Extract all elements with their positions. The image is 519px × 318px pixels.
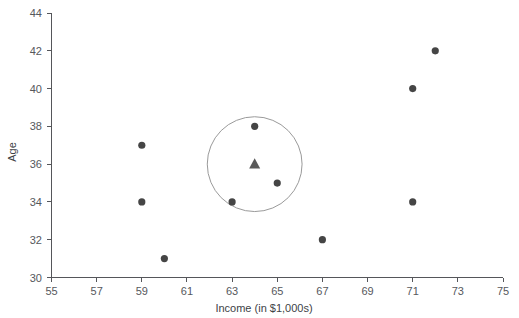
x-tick-label: 55 xyxy=(45,285,57,297)
data-point[interactable] xyxy=(409,85,416,92)
x-tick-label: 69 xyxy=(361,285,373,297)
data-point[interactable] xyxy=(161,255,168,262)
x-tick-labels: 55 57 59 61 63 65 67 69 71 73 75 xyxy=(45,285,509,297)
x-tick-label: 59 xyxy=(136,285,148,297)
y-tick-label: 34 xyxy=(30,196,42,208)
x-axis-ticks xyxy=(52,278,504,283)
x-tick-label: 71 xyxy=(407,285,419,297)
y-tick-label: 30 xyxy=(30,272,42,284)
data-point[interactable] xyxy=(229,198,236,205)
data-point[interactable] xyxy=(409,198,416,205)
y-tick-label: 44 xyxy=(30,7,42,19)
data-point[interactable] xyxy=(319,236,326,243)
data-point[interactable] xyxy=(274,179,281,186)
x-tick-label: 63 xyxy=(226,285,238,297)
x-tick-label: 61 xyxy=(181,285,193,297)
data-point[interactable] xyxy=(138,198,145,205)
x-tick-label: 57 xyxy=(91,285,103,297)
y-tick-labels: 30 32 34 36 38 40 42 44 xyxy=(30,7,42,284)
scatter-plot-figure: 30 32 34 36 38 40 42 44 55 57 59 61 63 6… xyxy=(0,0,519,318)
data-marker-layer xyxy=(138,47,439,262)
x-tick-label: 75 xyxy=(497,285,509,297)
y-tick-label: 38 xyxy=(30,120,42,132)
plot-canvas: 30 32 34 36 38 40 42 44 55 57 59 61 63 6… xyxy=(0,0,519,318)
data-point[interactable] xyxy=(432,47,439,54)
y-tick-label: 36 xyxy=(30,158,42,170)
y-tick-label: 32 xyxy=(30,234,42,246)
x-tick-label: 73 xyxy=(452,285,464,297)
x-tick-label: 65 xyxy=(271,285,283,297)
x-axis-title: Income (in $1,000s) xyxy=(215,302,312,314)
y-tick-label: 40 xyxy=(30,83,42,95)
data-point[interactable] xyxy=(138,142,145,149)
y-axis-ticks xyxy=(47,13,52,278)
x-tick-label: 67 xyxy=(316,285,328,297)
centroid-marker[interactable] xyxy=(249,158,260,168)
y-tick-label: 42 xyxy=(30,45,42,57)
data-point[interactable] xyxy=(251,123,258,130)
y-axis-title: Age xyxy=(6,142,18,162)
